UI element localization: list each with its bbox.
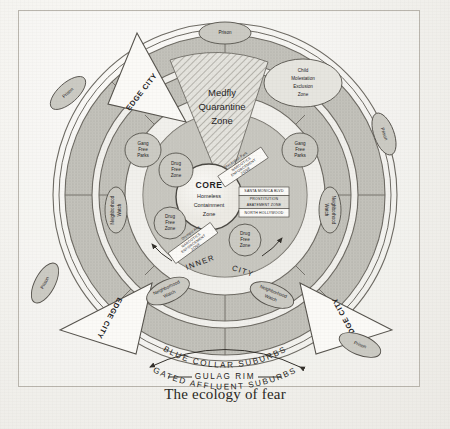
svg-text:Free: Free: [295, 147, 305, 152]
svg-text:Medfly: Medfly: [208, 87, 236, 98]
gang-free-parks-left: Gang Free Parks: [125, 133, 161, 167]
svg-text:ABATEMENT ZONE: ABATEMENT ZONE: [247, 203, 282, 207]
svg-text:Neighborhood: Neighborhood: [110, 195, 115, 224]
svg-text:Free: Free: [240, 237, 250, 242]
svg-text:Molestation: Molestation: [291, 76, 315, 81]
svg-text:PROSTITUTION: PROSTITUTION: [250, 197, 279, 201]
prison-upper-left: Prison: [45, 71, 91, 115]
svg-text:Zone: Zone: [203, 211, 215, 217]
svg-text:Gang: Gang: [294, 141, 306, 146]
svg-text:Zone: Zone: [211, 115, 233, 126]
svg-text:GULAG RIM: GULAG RIM: [195, 372, 255, 381]
gang-free-parks-right: Gang Free Parks: [282, 133, 318, 167]
svg-text:Drug: Drug: [240, 231, 250, 236]
svg-text:Child: Child: [298, 68, 309, 73]
prison-top: Prison: [199, 22, 251, 44]
svg-text:Zone: Zone: [298, 92, 309, 97]
drug-free-zone-upper-left: Drug Free Zone: [159, 153, 193, 187]
svg-text:Zone: Zone: [240, 243, 251, 248]
svg-text:Gang: Gang: [137, 141, 149, 146]
svg-text:Neighborhood: Neighborhood: [331, 196, 336, 225]
svg-text:Parks: Parks: [137, 153, 149, 158]
svg-text:Free: Free: [138, 147, 148, 152]
svg-text:Drug: Drug: [171, 161, 181, 166]
ecology-of-fear-diagram: EDGE CITY EDGE CITY EDGE CITY Medfly Qua…: [0, 0, 450, 429]
prostitution-abatement-zone: SANTA MONICA BLVD PROSTITUTION ABATEMENT…: [239, 187, 289, 217]
svg-text:Zone: Zone: [165, 226, 176, 231]
svg-text:Drug: Drug: [165, 214, 175, 219]
svg-text:Quarantine: Quarantine: [198, 101, 245, 112]
drug-free-zone-lower-left: Drug Free Zone: [154, 207, 186, 239]
svg-text:Prison: Prison: [218, 30, 231, 35]
svg-text:SANTA MONICA BLVD: SANTA MONICA BLVD: [244, 189, 284, 193]
svg-text:Zone: Zone: [171, 173, 182, 178]
svg-text:NORTH HOLLYWOOD: NORTH HOLLYWOOD: [245, 211, 284, 215]
svg-text:Homeless: Homeless: [197, 193, 221, 199]
neighborhood-watch-left: Neighborhood Watch: [105, 187, 127, 233]
svg-text:Watch: Watch: [324, 204, 329, 217]
svg-text:Containment: Containment: [194, 202, 225, 208]
svg-text:CORE: CORE: [196, 180, 223, 190]
child-molestation-exclusion-zone: Child Molestation Exclusion Zone: [264, 59, 342, 107]
drug-free-zone-lower-right: Drug Free Zone: [229, 224, 261, 256]
svg-text:Exclusion: Exclusion: [293, 84, 313, 89]
svg-text:Parks: Parks: [294, 153, 306, 158]
neighborhood-watch-right: Neighborhood Watch: [319, 187, 341, 233]
svg-text:Free: Free: [171, 167, 181, 172]
figure-ecology-of-fear: EDGE CITY EDGE CITY EDGE CITY Medfly Qua…: [0, 0, 450, 429]
figure-caption: The ecology of fear: [0, 386, 450, 403]
svg-text:Free: Free: [165, 220, 175, 225]
prison-lower-left: Prison: [26, 259, 64, 307]
svg-text:Watch: Watch: [117, 203, 122, 216]
